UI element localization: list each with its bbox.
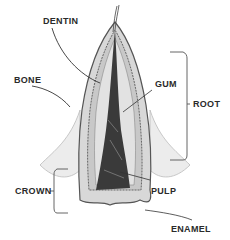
root-bracket [170, 52, 187, 160]
label-bone: BONE [14, 75, 41, 85]
label-pulp: PULP [151, 186, 176, 196]
label-root: ROOT [193, 99, 220, 109]
bone-leader [32, 86, 70, 107]
label-enamel: ENAMEL [171, 224, 211, 234]
label-crown: CROWN [15, 186, 52, 196]
tooth-diagram: DENTIN BONE GUM ROOT CROWN PULP ENAMEL [0, 0, 230, 240]
label-gum: GUM [155, 79, 177, 89]
enamel-leader [145, 210, 192, 220]
label-dentin: DENTIN [43, 16, 78, 26]
left-gum-tissue [40, 110, 80, 177]
right-gum-tissue [150, 110, 190, 177]
tooth-illustration [0, 0, 230, 240]
